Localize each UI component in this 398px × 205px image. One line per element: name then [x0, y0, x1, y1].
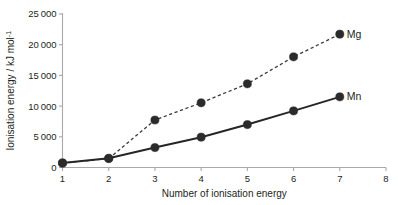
series-label-mg: Mg	[347, 28, 362, 40]
series-labels-group: MgMn	[347, 28, 362, 103]
data-point-mg-3	[151, 116, 159, 124]
y-axis-title: Ionisation energy / kJ mol-1	[5, 31, 17, 151]
x-tick-label: 3	[152, 173, 157, 184]
ionisation-energy-chart: 05 00010 00015 00020 00025 000 12345678 …	[0, 0, 398, 205]
data-point-mn-5	[243, 120, 251, 128]
x-tick-label: 2	[106, 173, 111, 184]
x-tick-label: 5	[245, 173, 250, 184]
y-axis-title-superscript: -1	[5, 31, 12, 37]
y-axis: 05 00010 00015 00020 00025 000	[28, 8, 62, 173]
data-point-mg-4	[197, 99, 205, 107]
series-label-mn: Mn	[347, 90, 362, 102]
x-tick-label: 7	[337, 173, 342, 184]
data-point-mg-5	[243, 80, 251, 88]
data-point-mn-1	[58, 159, 66, 167]
data-series-group	[58, 30, 343, 167]
x-tick-label: 4	[198, 173, 203, 184]
x-axis: 12345678	[60, 168, 389, 184]
chart-plot-area: 05 00010 00015 00020 00025 000 12345678 …	[0, 0, 398, 205]
y-tick-label: 10 000	[28, 101, 56, 112]
x-tick-label: 6	[291, 173, 296, 184]
x-tick-label: 1	[60, 173, 65, 184]
data-point-mn-7	[336, 93, 344, 101]
y-tick-label: 5 000	[33, 131, 56, 142]
data-point-mn-2	[105, 154, 113, 162]
y-tick-label: 25 000	[28, 8, 56, 19]
y-tick-label: 20 000	[28, 39, 56, 50]
data-point-mn-6	[289, 107, 297, 115]
x-tick-label: 8	[383, 173, 388, 184]
y-tick-label: 0	[51, 162, 56, 173]
data-point-mg-6	[289, 53, 297, 61]
x-axis-title: Number of ionisation energy	[162, 188, 287, 199]
data-point-mn-3	[151, 143, 159, 151]
data-point-mn-4	[197, 133, 205, 141]
data-point-mg-7	[336, 30, 344, 38]
y-tick-label: 15 000	[28, 70, 56, 81]
